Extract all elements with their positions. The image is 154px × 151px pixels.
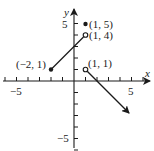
label-point-1-1: (1, 1) (88, 57, 112, 70)
x-tick-label-neg5: −5 (10, 85, 22, 97)
piecewise-function-graph: x −5 5 y 5 −5 (−2, 1) (1, 4) (1, 5) (1, … (0, 0, 154, 151)
x-tick-label-5: 5 (128, 85, 134, 97)
y-axis-label: y (63, 6, 69, 18)
isolated-point-1-5: (1, 5) (83, 18, 113, 31)
ray-from-1-1: (1, 1) (83, 57, 129, 113)
closed-point-neg2-1 (49, 67, 53, 71)
label-point-neg2-1: (−2, 1) (16, 58, 46, 71)
label-point-1-5: (1, 5) (89, 18, 113, 31)
x-axis-label: x (144, 67, 150, 79)
y-axis: y 5 −5 (57, 6, 78, 150)
y-tick-label-5: 5 (62, 18, 68, 30)
closed-point-1-5 (83, 22, 87, 26)
open-point-1-4 (83, 33, 88, 38)
y-tick-label-neg5: −5 (57, 132, 69, 144)
label-point-1-4: (1, 4) (89, 29, 113, 42)
